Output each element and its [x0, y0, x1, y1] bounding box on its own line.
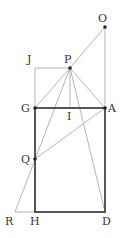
label-P: P — [64, 53, 72, 66]
point-G — [33, 106, 37, 110]
point-P — [68, 66, 72, 70]
label-J: J — [26, 53, 31, 66]
point-A — [103, 106, 107, 110]
label-I: I — [67, 110, 71, 123]
geometry-diagram: O P J G A I Q R H D — [0, 0, 130, 238]
label-A: A — [107, 102, 117, 115]
line-OP — [70, 27, 105, 68]
line-PG — [35, 68, 70, 108]
label-H: H — [30, 215, 40, 228]
label-R: R — [5, 215, 14, 228]
rectangle-GADH — [35, 108, 105, 212]
line-PD — [70, 68, 105, 212]
point-O — [103, 25, 107, 29]
labels: O P J G A I Q R H D — [5, 12, 117, 228]
label-O: O — [98, 12, 107, 25]
label-G: G — [21, 102, 30, 115]
point-Q — [33, 157, 37, 161]
label-Q: Q — [21, 153, 30, 166]
label-D: D — [102, 215, 111, 228]
